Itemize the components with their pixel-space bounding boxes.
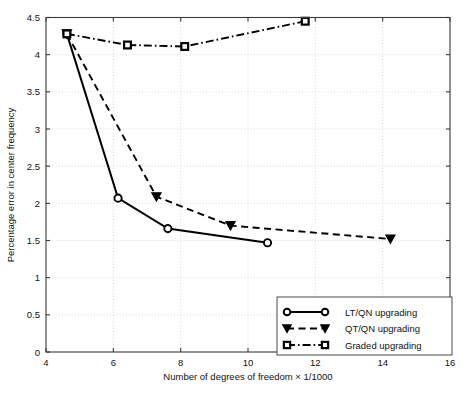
- x-tick-label: 12: [310, 357, 321, 368]
- legend-label: Graded upgrading: [345, 340, 422, 351]
- line-chart: 46810121416 00.511.522.533.544.5 Number …: [0, 0, 474, 393]
- y-tick-label: 2.5: [27, 161, 40, 172]
- series-triangle-down: [62, 30, 395, 243]
- y-tick-label: 4.5: [27, 12, 40, 23]
- x-tick-labels: 46810121416: [43, 357, 455, 368]
- marker-square: [284, 342, 290, 348]
- chart-figure: 46810121416 00.511.522.533.544.5 Number …: [0, 0, 474, 393]
- y-tick-label: 0: [35, 347, 40, 358]
- marker-square: [181, 43, 188, 50]
- x-tick-label: 4: [43, 357, 48, 368]
- legend: LT/QN upgradingQT/QN upgradingGraded upg…: [277, 297, 452, 355]
- y-tick-label: 0.5: [27, 309, 40, 320]
- series-line: [67, 34, 391, 239]
- x-tick-label: 10: [243, 357, 254, 368]
- marker-circle: [284, 309, 291, 316]
- marker-square: [63, 30, 70, 37]
- legend-label: LT/QN upgrading: [345, 307, 417, 318]
- marker-circle: [264, 239, 271, 246]
- series-circle: [63, 30, 271, 246]
- series-square: [63, 18, 308, 50]
- y-tick-label: 3.5: [27, 86, 40, 97]
- marker-triangle-down: [386, 235, 395, 243]
- marker-square: [322, 342, 328, 348]
- marker-circle: [164, 225, 171, 232]
- x-tick-label: 14: [377, 357, 388, 368]
- y-tick-label: 2: [35, 198, 40, 209]
- marker-square: [124, 42, 131, 49]
- y-tick-label: 4: [35, 49, 40, 60]
- y-tick-labels: 00.511.522.533.544.5: [27, 12, 40, 358]
- x-tick-label: 8: [178, 357, 183, 368]
- y-tick-label: 1: [35, 272, 40, 283]
- legend-label: QT/QN upgrading: [345, 323, 420, 334]
- y-tick-label: 3: [35, 124, 40, 135]
- y-tick-label: 1.5: [27, 235, 40, 246]
- series-line: [67, 34, 268, 243]
- x-axis-title: Number of degrees of freedom × 1/1000: [163, 371, 332, 382]
- x-tick-label: 16: [445, 357, 456, 368]
- marker-square: [302, 18, 309, 25]
- y-axis-title: Percentage error in center frequency: [5, 107, 16, 262]
- marker-circle: [322, 309, 329, 316]
- marker-circle: [114, 195, 121, 202]
- x-tick-label: 6: [111, 357, 116, 368]
- marker-triangle-down: [152, 193, 161, 201]
- data-series-layer: [62, 18, 395, 247]
